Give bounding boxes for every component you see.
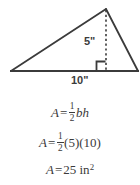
equation-3-equals: = [54, 162, 63, 177]
equation-2-equals: = [47, 135, 56, 150]
height-dimension-label: 5" [84, 36, 95, 47]
equation-2-fraction-numerator: 1 [57, 132, 64, 143]
base-dimension-label: 10" [71, 75, 88, 86]
equation-area-formula: A=12bh [0, 102, 140, 123]
equation-3-lhs: A [46, 162, 54, 177]
equation-substituted-values: A=12(5)(10) [0, 132, 140, 153]
triangle-diagram-svg [0, 0, 140, 92]
equation-1-fraction-numerator: 1 [69, 102, 76, 113]
equation-3-unit: in [76, 162, 89, 177]
triangle-figure: 5" 10" [0, 0, 140, 92]
equation-2-fraction-denominator: 2 [57, 143, 64, 153]
equation-2-fraction: 12 [57, 132, 64, 153]
equation-1-height-variable: h [82, 105, 89, 120]
equation-2-second-factor: (10) [79, 135, 101, 150]
equation-2-first-factor: (5) [64, 135, 79, 150]
equation-3-unit-text: in [80, 162, 90, 177]
triangle-right-edge [106, 9, 138, 71]
equation-1-fraction-denominator: 2 [69, 113, 76, 123]
equation-1-fraction: 12 [69, 102, 76, 123]
equation-1-lhs: A [51, 105, 59, 120]
equation-1-equals: = [59, 105, 68, 120]
area-equations: A=12bh A=12(5)(10) A=25 in2 [0, 92, 140, 185]
equation-3-exponent: 2 [90, 162, 94, 172]
equation-2-lhs: A [39, 135, 47, 150]
right-angle-marker-icon [97, 62, 106, 71]
equation-result: A=25 in2 [0, 163, 140, 176]
equation-3-value: 25 [63, 162, 76, 177]
